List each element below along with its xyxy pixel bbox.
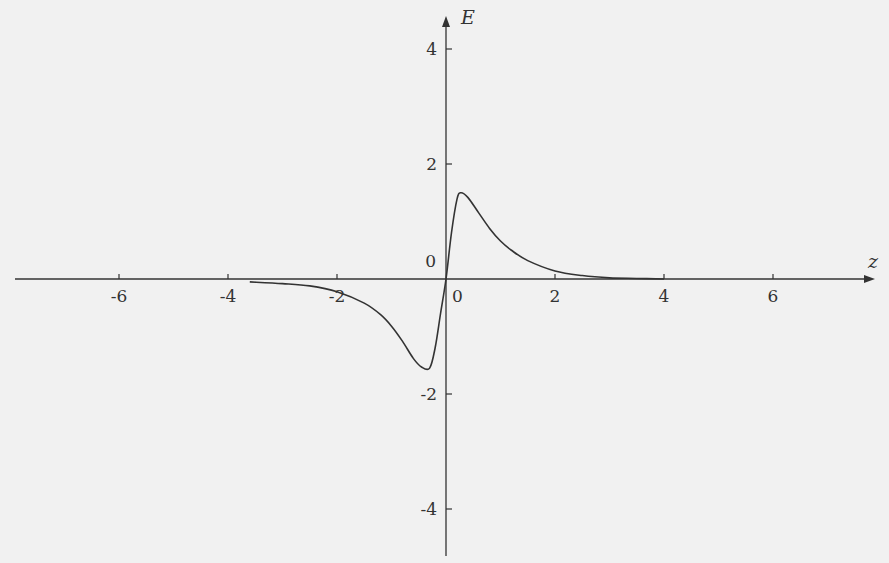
e-field-curve	[250, 193, 664, 370]
y-axis-arrow-icon	[442, 16, 450, 27]
x-axis-arrow-icon	[864, 275, 875, 283]
x-tick-label: 2	[550, 286, 561, 306]
y-tick-label: 4	[426, 39, 437, 59]
x-tick-label: 4	[659, 286, 670, 306]
y-tick-label: -2	[420, 384, 437, 404]
y-tick-label: 0	[425, 251, 436, 271]
x-tick-label: -2	[329, 286, 346, 306]
x-axis-label: z	[867, 250, 879, 272]
x-tick-label: 0	[452, 286, 463, 306]
y-tick-label: 2	[426, 154, 437, 174]
y-axis-label: E	[460, 6, 475, 28]
x-tick-label: -4	[220, 286, 237, 306]
x-tick-label: -6	[111, 286, 128, 306]
y-tick-label: -4	[420, 499, 437, 519]
x-tick-label: 6	[768, 286, 779, 306]
chart-canvas: -6-4-20246-4-2024 z E	[0, 0, 889, 563]
